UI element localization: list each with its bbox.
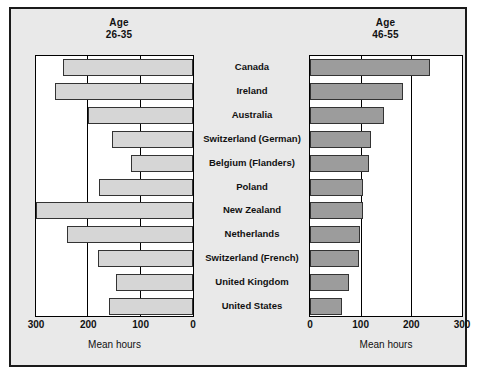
bar-track — [310, 155, 462, 172]
tick-label-left-100: 100 — [128, 319, 154, 330]
category-label: Poland — [197, 178, 307, 195]
bar-right-united-kingdom[interactable] — [310, 274, 349, 291]
category-label: Switzerland (German) — [197, 130, 307, 147]
bar-left-new-zealand[interactable] — [36, 202, 193, 219]
right-panel-title-line2: 46-55 — [309, 29, 462, 41]
bar-left-switzerland-german[interactable] — [112, 131, 193, 148]
bar-left-switzerland-french[interactable] — [98, 250, 193, 267]
bar-left-poland[interactable] — [99, 179, 193, 196]
bar-left-united-kingdom[interactable] — [116, 274, 193, 291]
left-panel-title-line2: 26-35 — [44, 29, 194, 41]
bar-right-switzerland-french[interactable] — [310, 250, 359, 267]
tick-label-left-300: 300 — [23, 319, 49, 330]
right-panel-title: Age 46-55 — [309, 17, 462, 41]
category-label: New Zealand — [197, 201, 307, 218]
bar-left-belgium-flanders[interactable] — [131, 155, 193, 172]
bar-left-netherlands[interactable] — [67, 226, 193, 243]
bar-track — [36, 107, 193, 124]
category-label: Canada — [197, 58, 307, 75]
bar-track — [36, 179, 193, 196]
category-label-column: CanadaIrelandAustraliaSwitzerland (Germa… — [197, 55, 307, 317]
right-chart-plot-area — [309, 55, 463, 317]
bar-track — [36, 226, 193, 243]
tick-label-right-200: 200 — [398, 319, 424, 330]
tick-label-right-100: 100 — [348, 319, 374, 330]
category-label: United States — [197, 297, 307, 314]
bar-track — [36, 155, 193, 172]
bar-right-poland[interactable] — [310, 179, 363, 196]
bar-track — [310, 131, 462, 148]
bar-track — [310, 59, 462, 76]
tick-label-left-0: 0 — [180, 319, 206, 330]
figure-panel: Age 26-35 Age 46-55 CanadaIrelandAustral… — [9, 7, 467, 367]
left-panel-title-line1: Age — [44, 17, 194, 29]
bar-track — [36, 274, 193, 291]
bar-right-new-zealand[interactable] — [310, 202, 363, 219]
left-axis-title: Mean hours — [35, 339, 194, 350]
bar-right-ireland[interactable] — [310, 83, 403, 100]
right-axis-title: Mean hours — [309, 339, 463, 350]
bar-track — [36, 59, 193, 76]
bar-track — [310, 107, 462, 124]
bar-track — [310, 250, 462, 267]
tick-label-right-300: 300 — [449, 319, 475, 330]
bar-track — [310, 179, 462, 196]
bar-right-australia[interactable] — [310, 107, 384, 124]
bar-track — [310, 202, 462, 219]
bar-track — [36, 131, 193, 148]
category-label: Switzerland (French) — [197, 249, 307, 266]
bar-left-canada[interactable] — [63, 59, 193, 76]
category-label: Australia — [197, 106, 307, 123]
bar-track — [310, 226, 462, 243]
right-panel-title-line1: Age — [309, 17, 462, 29]
bar-left-united-states[interactable] — [109, 298, 193, 315]
tick-label-left-200: 200 — [75, 319, 101, 330]
bar-track — [310, 83, 462, 100]
category-label: Netherlands — [197, 225, 307, 242]
bar-right-belgium-flanders[interactable] — [310, 155, 369, 172]
category-label: Belgium (Flanders) — [197, 154, 307, 171]
category-label: Ireland — [197, 82, 307, 99]
category-label: United Kingdom — [197, 273, 307, 290]
bar-right-netherlands[interactable] — [310, 226, 360, 243]
left-panel-title: Age 26-35 — [44, 17, 194, 41]
bar-track — [36, 298, 193, 315]
bar-right-canada[interactable] — [310, 59, 430, 76]
bar-track — [36, 83, 193, 100]
bar-left-ireland[interactable] — [55, 83, 193, 100]
bar-track — [310, 274, 462, 291]
bar-track — [36, 202, 193, 219]
tick-label-right-0: 0 — [297, 319, 323, 330]
left-chart-plot-area — [35, 55, 194, 317]
bar-track — [310, 298, 462, 315]
bar-right-united-states[interactable] — [310, 298, 342, 315]
bar-track — [36, 250, 193, 267]
bar-left-australia[interactable] — [88, 107, 193, 124]
bar-right-switzerland-german[interactable] — [310, 131, 371, 148]
